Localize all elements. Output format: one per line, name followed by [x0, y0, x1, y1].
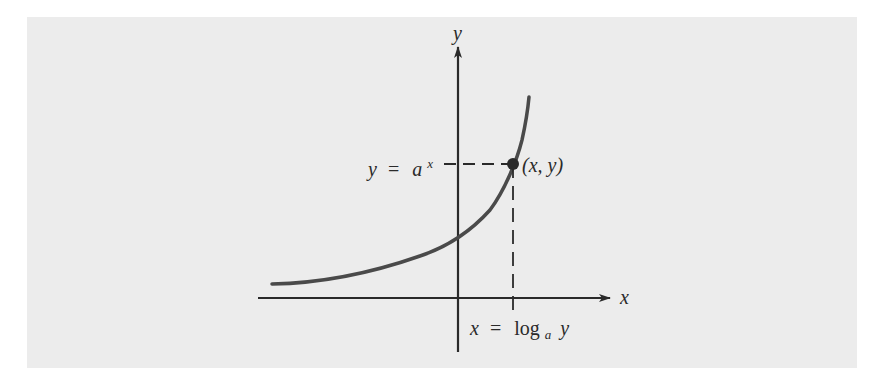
x-axis-label: x: [619, 286, 629, 308]
exponential-curve: [272, 97, 529, 284]
curve-eq-exponent: x: [426, 156, 433, 171]
point-marker: [507, 158, 519, 170]
inverse-eq-arg: y: [558, 317, 569, 340]
y-axis-label: y: [451, 22, 462, 45]
inverse-eq-lhs: x: [469, 317, 479, 339]
inverse-equation-label: x = log a y: [469, 317, 569, 343]
inverse-eq-func: log: [514, 317, 540, 340]
curve-eq-equals: =: [388, 158, 399, 180]
curve-eq-base: a: [412, 158, 422, 180]
exponential-diagram: y x y = a x (x, y) x = log a y: [0, 0, 870, 375]
inverse-eq-subscript: a: [545, 327, 552, 342]
inverse-eq-equals: =: [490, 317, 501, 339]
point-label: (x, y): [522, 154, 563, 177]
curve-equation-label: y = a x: [366, 156, 433, 181]
curve-eq-lhs: y: [366, 158, 377, 181]
